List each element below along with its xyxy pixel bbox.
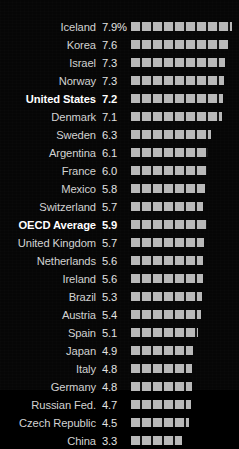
bar-track: [131, 256, 235, 265]
bar-track: [131, 130, 235, 139]
bar-track: [131, 238, 235, 247]
row-country-label: Iceland: [0, 18, 96, 36]
bar-track: [131, 382, 235, 391]
row-country-label: Russian Fed.: [0, 396, 96, 414]
row-country-label: Sweden: [0, 126, 96, 144]
chart-row: Italy4.8: [0, 360, 239, 378]
bar-segment: [131, 220, 207, 229]
bar-segment: [131, 346, 193, 355]
bar-segment: [131, 400, 191, 409]
chart-row: Brazil5.3: [0, 288, 239, 306]
row-value-label: 4.8: [102, 360, 128, 378]
bar-track: [131, 76, 235, 85]
row-value-label: 5.6: [102, 252, 128, 270]
bar-segment: [131, 436, 182, 445]
chart-row: United States7.2: [0, 90, 239, 108]
bar-segment: [131, 364, 192, 373]
bar-track: [131, 220, 235, 229]
bar-segment: [131, 76, 224, 85]
bar-track: [131, 22, 235, 31]
bar-track: [131, 364, 235, 373]
bar-track: [131, 418, 235, 427]
row-value-label: 7.3: [102, 54, 128, 72]
chart-row: Switzerland5.7: [0, 198, 239, 216]
row-country-label: Netherlands: [0, 252, 96, 270]
bar-track: [131, 166, 235, 175]
bar-track: [131, 328, 235, 337]
bar-segment: [131, 310, 201, 319]
bar-track: [131, 94, 235, 103]
row-value-label: 3.3: [102, 432, 128, 449]
row-country-label: France: [0, 162, 96, 180]
row-country-label: Argentina: [0, 144, 96, 162]
row-country-label: Japan: [0, 342, 96, 360]
bar-segment: [131, 274, 203, 283]
bar-segment: [131, 202, 203, 211]
row-value-label: 7.3: [102, 72, 128, 90]
bar-segment: [131, 40, 228, 49]
chart-row: Germany4.8: [0, 378, 239, 396]
row-value-label: 4.9: [102, 342, 128, 360]
chart-row: Israel7.3: [0, 54, 239, 72]
chart-row: Ireland5.6: [0, 270, 239, 288]
row-country-label: OECD Average: [0, 216, 96, 234]
bar-segment: [131, 256, 203, 265]
row-value-label: 5.7: [102, 198, 128, 216]
row-value-label: 7.9%: [102, 18, 128, 36]
row-country-label: United Kingdom: [0, 234, 96, 252]
bar-track: [131, 184, 235, 193]
row-value-label: 5.6: [102, 270, 128, 288]
chart-row: Norway7.3: [0, 72, 239, 90]
bar-track: [131, 400, 235, 409]
row-value-label: 7.1: [102, 108, 128, 126]
chart-row: Denmark7.1: [0, 108, 239, 126]
row-country-label: Italy: [0, 360, 96, 378]
row-country-label: United States: [0, 90, 96, 108]
row-value-label: 4.7: [102, 396, 128, 414]
bar-segment: [131, 112, 222, 121]
row-value-label: 7.2: [102, 90, 128, 108]
bar-segment: [131, 238, 204, 247]
row-value-label: 6.0: [102, 162, 128, 180]
row-value-label: 5.8: [102, 180, 128, 198]
row-value-label: 6.1: [102, 144, 128, 162]
bar-segment: [131, 166, 207, 175]
bar-track: [131, 58, 235, 67]
chart-row: Sweden6.3: [0, 126, 239, 144]
bar-track: [131, 40, 235, 49]
bar-segment: [131, 184, 205, 193]
bar-segment: [131, 148, 208, 157]
chart-row: Netherlands5.6: [0, 252, 239, 270]
row-value-label: 5.3: [102, 288, 128, 306]
chart-rows: Iceland7.9%Korea7.6Israel7.3Norway7.3Uni…: [0, 18, 239, 449]
bar-track: [131, 202, 235, 211]
row-value-label: 4.8: [102, 378, 128, 396]
row-value-label: 5.9: [102, 216, 128, 234]
row-country-label: China: [0, 432, 96, 449]
chart-row: Mexico5.8: [0, 180, 239, 198]
row-country-label: Germany: [0, 378, 96, 396]
chart-row: France6.0: [0, 162, 239, 180]
chart-row: Czech Republic4.5: [0, 414, 239, 432]
chart-row: Argentina6.1: [0, 144, 239, 162]
row-country-label: Denmark: [0, 108, 96, 126]
bar-segment: [131, 418, 189, 427]
row-country-label: Israel: [0, 54, 96, 72]
bar-track: [131, 148, 235, 157]
bar-segment: [131, 292, 202, 301]
bar-segment: [131, 382, 192, 391]
chart-row: Russian Fed.4.7: [0, 396, 239, 414]
row-value-label: 5.4: [102, 306, 128, 324]
bar-track: [131, 346, 235, 355]
bar-segment: [131, 22, 232, 31]
row-country-label: Mexico: [0, 180, 96, 198]
row-country-label: Czech Republic: [0, 414, 96, 432]
chart-row: Iceland7.9%: [0, 18, 239, 36]
row-value-label: 4.5: [102, 414, 128, 432]
chart-row: China3.3: [0, 432, 239, 449]
row-country-label: Switzerland: [0, 198, 96, 216]
chart-title: [0, 0, 239, 10]
row-value-label: 5.1: [102, 324, 128, 342]
bar-track: [131, 112, 235, 121]
row-country-label: Austria: [0, 306, 96, 324]
